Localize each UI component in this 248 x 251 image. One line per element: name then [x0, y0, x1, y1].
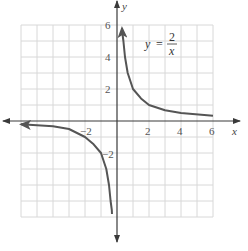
hyperbola-chart: y x −2 2 4 6 6 4 2 −2 y = 2 x [0, 0, 248, 251]
y-tick-label: 2 [105, 83, 111, 95]
svg-text:=: = [156, 37, 163, 51]
svg-text:y: y [144, 37, 151, 51]
x-tick-label: 6 [209, 125, 215, 137]
x-axis-label: x [231, 125, 237, 137]
axes [3, 1, 240, 242]
y-axis-label: y [121, 0, 127, 12]
x-tick-label: 4 [177, 125, 183, 137]
y-tick-label: 4 [105, 51, 111, 63]
svg-text:2: 2 [169, 30, 175, 44]
svg-text:x: x [168, 44, 175, 58]
x-tick-label: 2 [145, 125, 151, 137]
y-tick-label: 6 [105, 19, 111, 31]
